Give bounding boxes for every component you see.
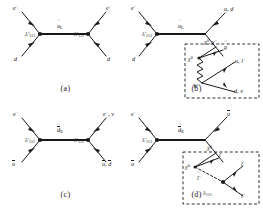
vertex-dots bbox=[155, 32, 159, 36]
caption-c: (c) bbox=[0, 190, 131, 199]
label-b-chi: χ0 bbox=[188, 56, 193, 62]
label-a-d-out: d bbox=[107, 56, 110, 62]
label-b-lambda-left: λ'111 bbox=[142, 31, 152, 38]
label-c-antiquarks-out: u, d bbox=[102, 161, 111, 167]
label-c-squark-propagator: dR bbox=[57, 127, 63, 134]
w-boson-wavy-line bbox=[197, 58, 203, 83]
feynman-diagram-figure: e+ d e+ d λ'111 λ'111 uL (a) bbox=[0, 0, 263, 212]
internal-arrow-heads bbox=[213, 51, 227, 88]
label-a-lambda-right: λ'111 bbox=[74, 31, 84, 38]
label-d-squark-propagator: dR bbox=[178, 127, 184, 134]
label-c-lambda-left: λ'111 bbox=[25, 137, 35, 144]
label-b-e-plus-in: e+ bbox=[131, 5, 136, 11]
label-c-ubar-in: u bbox=[12, 161, 15, 167]
label-d-ubar-in: u bbox=[131, 161, 134, 167]
panel-b: e+ d u, d λ'111 uL χ0, χ− χ0 g W± u, l+ … bbox=[131, 0, 262, 106]
label-d-lepton-out-upper: l+ bbox=[241, 161, 245, 167]
panel-d: e+ u u λ'111 dR χ0 χ0 l+ l− λ111 l+ l− (… bbox=[131, 106, 262, 212]
label-c-lambda-right: λ'111 bbox=[74, 137, 84, 144]
caption-d: (d) bbox=[131, 190, 262, 199]
label-b-d-in: d bbox=[132, 56, 135, 62]
label-d-chi-propagator: χ0 bbox=[207, 145, 212, 151]
label-a-d-in: d bbox=[14, 56, 17, 62]
label-b-squark-propagator: uL bbox=[178, 23, 184, 30]
label-d-slepton: l− bbox=[197, 175, 201, 181]
internal-vertex-dots bbox=[197, 56, 200, 59]
panel-a: e+ d e+ d λ'111 λ'111 uL (a) bbox=[0, 0, 131, 106]
label-a-e-plus-in: e+ bbox=[13, 5, 18, 11]
caption-b: (b) bbox=[131, 84, 262, 93]
label-b-quark-upper: u, l+ bbox=[235, 58, 245, 64]
label-d-lepton-upper: l+ bbox=[219, 152, 223, 158]
panel-c: e+ u e+, ν u, d λ'111 λ'111 dR (c) bbox=[0, 106, 131, 212]
label-d-lambda-left: λ'111 bbox=[142, 137, 152, 144]
caption-a: (a) bbox=[0, 84, 131, 93]
label-d-e-plus-in: e+ bbox=[131, 111, 136, 117]
label-d-chi: χ0 bbox=[185, 164, 190, 170]
label-a-lambda-left: λ'111 bbox=[25, 31, 35, 38]
label-c-leptons-out: e+, ν bbox=[103, 111, 114, 117]
leg-ubar-out bbox=[205, 117, 227, 140]
label-a-e-plus-out: e+ bbox=[106, 5, 111, 11]
label-b-gluino: g bbox=[224, 44, 227, 50]
quark-upper-line bbox=[202, 62, 235, 83]
label-d-ubar-out: u bbox=[227, 111, 230, 117]
internal-arrow-heads bbox=[210, 159, 237, 192]
label-c-e-plus-in: e+ bbox=[13, 111, 18, 117]
vertex-dots bbox=[155, 138, 159, 142]
label-b-quarks-out: u, d bbox=[224, 6, 233, 12]
label-b-gaugino: χ0, χ− bbox=[204, 39, 217, 45]
gluino-line bbox=[199, 50, 223, 58]
label-a-squark-propagator: uL bbox=[57, 23, 63, 30]
